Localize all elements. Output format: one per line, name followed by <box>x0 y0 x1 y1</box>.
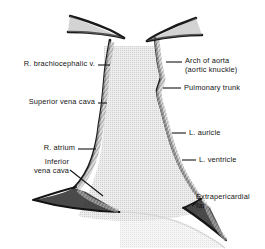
anatomical-figure: R. brachiocephalic v. Superior vena cava… <box>0 0 265 249</box>
clavicle-right <box>147 18 202 41</box>
cardiac-silhouette-diagram <box>0 0 265 249</box>
label-l-auricle: L. auricle <box>189 129 220 138</box>
label-r-atrium: R. atrium <box>44 144 75 153</box>
label-pulmonary-trunk: Pulmonary trunk <box>184 84 240 93</box>
label-arch-of-aorta: Arch of aorta (aortic knuckle) <box>185 57 237 74</box>
label-inferior-vena-cava: Inferior vena cava <box>34 158 69 175</box>
label-l-ventricle: L. ventricle <box>199 156 237 165</box>
clavicle-left <box>68 16 124 38</box>
label-extrapericardial-fat: Extrapericardial fat <box>196 193 250 210</box>
label-r-brachiocephalic-vein: R. brachiocephalic v. <box>24 60 95 69</box>
label-superior-vena-cava: Superior vena cava <box>29 98 95 107</box>
